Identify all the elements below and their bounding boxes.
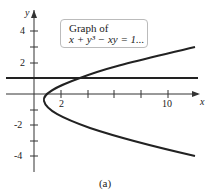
x-tick-label: 2 — [59, 99, 64, 109]
x-axis-label: x — [200, 97, 204, 107]
y-tick-label: -4 — [14, 151, 22, 161]
y-tick-label: 2 — [20, 58, 25, 68]
legend-box: Graph of x + y³ − xy = 1... — [60, 19, 148, 48]
x-axis-arrow-icon — [192, 91, 200, 97]
y-tick-label: 4 — [20, 26, 25, 36]
legend-line-2: x + y³ − xy = 1... — [69, 34, 147, 45]
y-axis-arrow-icon — [31, 10, 37, 18]
y-axis-label: y — [25, 8, 29, 18]
y-tick-label: -2 — [14, 120, 22, 130]
figure-caption: (a) — [0, 177, 210, 189]
x-tick-label: 10 — [162, 99, 172, 109]
parabola-curve — [44, 47, 195, 156]
